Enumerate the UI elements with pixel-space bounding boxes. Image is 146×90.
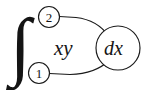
math-figure-canvas: ∫ xy dx 2 1 [0, 0, 146, 90]
math-expression-diagram: ∫ xy dx 2 1 [0, 0, 146, 90]
differential-label: dx [104, 37, 123, 59]
integrand-label: xy [53, 36, 73, 60]
lower-limit-label: 1 [36, 66, 43, 81]
upper-limit-label: 2 [46, 10, 53, 25]
